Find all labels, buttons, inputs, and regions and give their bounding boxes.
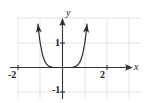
y-tick-label-1: 1 [55, 38, 60, 48]
x-tick-label-neg2: -2 [8, 70, 16, 80]
grid-lines-horizontal [18, 18, 141, 92]
y-axis-label: y [66, 8, 70, 18]
grid-lines-vertical [18, 18, 129, 99]
graph-figure: y x -2 2 1 -1 [0, 0, 147, 103]
x-axis-label: x [134, 62, 138, 72]
y-tick-label-neg1: -1 [52, 85, 60, 95]
x-tick-label-2: 2 [100, 70, 105, 80]
coordinate-plot [0, 0, 147, 103]
